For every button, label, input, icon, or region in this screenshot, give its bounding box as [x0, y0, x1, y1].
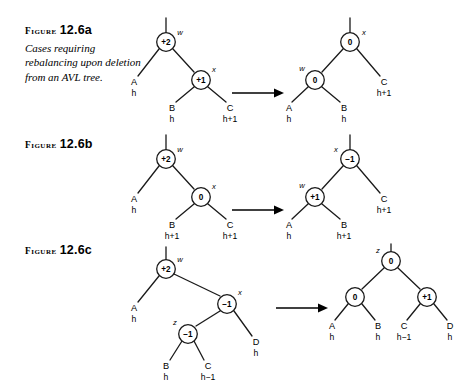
subtree-B-label: B [375, 321, 381, 331]
edge-x-to-D [434, 304, 447, 320]
tree-before-12-6b: +2 w 0 x A h B h+1 C h+1 [128, 131, 248, 235]
edge-w-to-x [174, 274, 220, 296]
subtree-B-height: h+1 [165, 231, 180, 241]
subtree-A-height: h [287, 231, 292, 241]
figure-title-a: Figure 12.6a [25, 24, 143, 38]
subtree-B-height: h [164, 372, 169, 382]
edge-x-to-z [196, 311, 220, 326]
subtree-C-label: C [401, 321, 408, 331]
subtree-B-label: B [163, 361, 169, 371]
edge-z-to-w [362, 268, 384, 289]
node-x-name: x [237, 288, 243, 297]
edge-x-to-w [322, 49, 343, 72]
node-x-name: x [333, 145, 339, 154]
subtree-A-label: A [329, 321, 336, 331]
subtree-D-label: D [253, 337, 260, 347]
subtree-D-height: h [254, 348, 259, 358]
node-w-balance: +1 [310, 193, 320, 202]
subtree-B-label: B [169, 103, 175, 113]
edge-x-to-w [322, 166, 343, 189]
subtree-A-height: h [132, 88, 137, 98]
node-w-name: w [299, 181, 305, 190]
subtree-A-height: h [132, 205, 137, 215]
node-w-name: w [177, 145, 183, 154]
node-x-balance: −1 [345, 155, 355, 164]
figure-panel-12-6b: Figure 12.6b +2 w 0 x A h B h+1 C h+1 [0, 122, 475, 244]
subtree-C-label: C [205, 361, 212, 371]
tree-after-12-6a: 0 x 0 w A h B h C h+1 [288, 14, 408, 118]
edge-w-to-A [138, 166, 159, 193]
edge-w-to-B [362, 304, 375, 320]
subtree-A-height: h [330, 332, 335, 342]
edge-w-to-x [173, 49, 194, 72]
transform-arrow-c [274, 301, 330, 315]
subtree-C-label: C [381, 77, 388, 87]
subtree-A-label: A [131, 303, 138, 313]
subtree-B-label: B [341, 220, 347, 230]
figure-number-b: 12.6b [60, 137, 93, 151]
edge-w-to-A [138, 276, 159, 302]
figure-panel-12-6c: Figure 12.6c +2 w −1 x −1 z A h B h [0, 244, 475, 383]
node-x-name: x [211, 182, 217, 191]
subtree-C-label: C [381, 194, 388, 204]
node-x-name: x [211, 65, 217, 74]
caption-block-a: Figure 12.6a Cases requiring rebalancing… [25, 24, 143, 84]
node-w-balance: +2 [161, 38, 171, 47]
tree-after-12-6b: −1 x +1 w A h B h+1 C h+1 [288, 131, 408, 235]
node-z-balance: −1 [183, 330, 193, 339]
arrow-head [274, 206, 284, 215]
edge-x-to-B [176, 204, 194, 219]
edge-z-to-x [398, 268, 420, 289]
edge-w-to-A [335, 304, 348, 320]
edge-w-to-x [173, 166, 194, 189]
subtree-D-height: h [448, 332, 453, 342]
subtree-C-label: C [227, 103, 234, 113]
caption-block-c: Figure 12.6c [25, 244, 143, 258]
edge-w-to-B [322, 204, 340, 219]
subtree-D-label: D [447, 321, 454, 331]
node-x-balance: +1 [196, 76, 206, 85]
figure-description-a: Cases requiring rebalancing upon deletio… [25, 41, 143, 84]
subtree-C-height: h−1 [397, 332, 412, 342]
subtree-A-height: h [132, 314, 137, 324]
caption-block-b: Figure 12.6b [25, 138, 143, 152]
node-x-balance: 0 [348, 38, 353, 47]
edge-x-to-C [208, 204, 226, 219]
node-x-balance: 0 [199, 193, 204, 202]
transform-arrow-b [230, 203, 286, 217]
edge-z-to-B [170, 341, 182, 360]
figure-number-c: 12.6c [60, 243, 92, 257]
subtree-A-label: A [286, 220, 293, 230]
node-w-name: w [299, 64, 305, 73]
arrow-head [274, 89, 284, 98]
figure-panel-12-6a: Figure 12.6a Cases requiring rebalancing… [0, 0, 475, 122]
subtree-C-height: h+1 [377, 88, 392, 98]
edge-w-to-A [138, 49, 159, 76]
arrow-head [318, 304, 328, 313]
node-x-balance: +1 [422, 293, 432, 302]
edge-z-to-C [194, 341, 204, 360]
subtree-B-height: h [376, 332, 381, 342]
edge-x-to-B [176, 87, 194, 102]
tree-before-12-6c: +2 w −1 x −1 z A h B h C h−1 D h [128, 244, 268, 378]
edge-x-to-C [357, 49, 380, 76]
node-w-balance: 0 [353, 293, 358, 302]
node-w-balance: +2 [161, 155, 171, 164]
edge-x-to-C [407, 304, 420, 320]
subtree-B-label: B [341, 103, 347, 113]
figure-word-b: Figure [25, 140, 57, 150]
subtree-A-label: A [131, 77, 138, 87]
edge-w-to-B [322, 87, 340, 102]
transform-arrow-a [230, 86, 286, 100]
subtree-B-height: h+1 [337, 231, 352, 241]
tree-before-12-6a: +2 w +1 x A h B h C h+1 [128, 14, 248, 118]
figure-title-c: Figure 12.6c [25, 244, 143, 258]
figure-title-b: Figure 12.6b [25, 138, 143, 152]
node-x-name: x [361, 28, 367, 37]
subtree-C-height: h−1 [201, 372, 216, 382]
node-w-balance: +2 [161, 265, 171, 274]
node-z-balance: 0 [389, 257, 394, 266]
subtree-B-label: B [169, 220, 175, 230]
subtree-A-label: A [286, 103, 293, 113]
node-x-balance: −1 [222, 300, 232, 309]
